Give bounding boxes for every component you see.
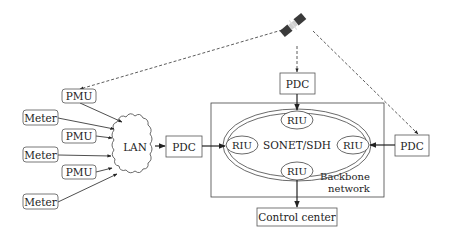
svg-text:LAN: LAN (123, 141, 147, 153)
svg-text:PDC: PDC (286, 78, 310, 90)
svg-text:Meter: Meter (24, 196, 57, 208)
svg-text:PMU: PMU (66, 166, 93, 178)
svg-text:PDC: PDC (172, 141, 196, 153)
pdc-left: PDC (166, 136, 202, 157)
lan-cloud: LAN (112, 114, 152, 173)
pmu-2: PMU (62, 129, 96, 143)
riu-top: RIU (281, 111, 313, 129)
svg-text:PDC: PDC (400, 140, 424, 152)
satellite-icon (278, 11, 307, 38)
pdc-top: PDC (280, 73, 315, 94)
meter-3: Meter (23, 194, 58, 209)
link-satellite-pmu (80, 30, 282, 89)
meter-1: Meter (23, 110, 58, 125)
svg-text:Control center: Control center (258, 211, 337, 223)
riu-bottom: RIU (281, 162, 313, 180)
riu-left: RIU (226, 136, 258, 154)
svg-text:PMU: PMU (66, 130, 93, 142)
svg-text:RIU: RIU (287, 166, 307, 177)
sonet-sdh-label: SONET/SDH (263, 139, 331, 151)
svg-text:RIU: RIU (287, 115, 307, 126)
svg-text:PMU: PMU (66, 90, 93, 102)
pmu-3: PMU (62, 165, 96, 179)
svg-text:RIU: RIU (343, 140, 363, 151)
pdc-right: PDC (395, 135, 429, 156)
control-center: Control center (257, 208, 337, 226)
svg-text:Meter: Meter (24, 112, 57, 124)
meter-2: Meter (23, 147, 58, 162)
pmu-top: PMU (62, 89, 96, 103)
link-satellite-pdc-right (313, 31, 418, 134)
svg-text:RIU: RIU (232, 140, 252, 151)
riu-right: RIU (337, 136, 369, 154)
wide-area-monitoring-diagram: Backbone network SONET/SDH RIU RIU RIU R… (0, 0, 455, 241)
backbone-label-line2: network (328, 183, 371, 194)
svg-text:Meter: Meter (24, 149, 57, 161)
